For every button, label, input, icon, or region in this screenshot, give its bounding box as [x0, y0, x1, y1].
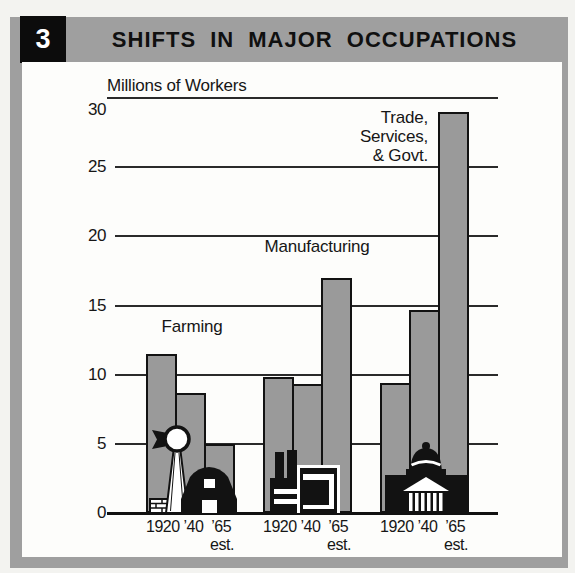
- figure-header: SHIFTS IN MAJOR OCCUPATIONS: [10, 17, 568, 62]
- series-label-manufacturing: Manufacturing: [257, 237, 377, 257]
- x-tick-row: 1920’40’65: [380, 518, 469, 536]
- x-tick-est-label: est.: [204, 536, 240, 554]
- x-tick-row: 1920’40’65: [146, 518, 235, 536]
- x-tick-label: 1920: [380, 518, 414, 536]
- trade-label-line1: Trade, Services,: [312, 108, 428, 146]
- bar-farming-65: [204, 444, 235, 513]
- figure-panel: 3 SHIFTS IN MAJOR OCCUPATIONS Millions o…: [10, 17, 568, 568]
- trade-label-line2: & Govt.: [312, 146, 428, 165]
- x-tick-label: ’65: [441, 518, 469, 536]
- bar-manufacturing-65: [321, 278, 352, 513]
- x-tick-label: ’40: [180, 518, 208, 536]
- gridline-30: [107, 97, 498, 99]
- x-tick-row: 1920’40’65: [263, 518, 352, 536]
- series-label-farming: Farming: [142, 317, 242, 337]
- bar-trade-services-govt--65: [438, 112, 469, 513]
- x-tick-label: 1920: [263, 518, 297, 536]
- y-tick-label-20: 20: [22, 226, 106, 246]
- x-tick-label: ’65: [324, 518, 352, 536]
- bar-manufacturing-40: [292, 384, 323, 513]
- x-tick-label: ’40: [297, 518, 325, 536]
- bar-trade-services-govt--1920: [380, 383, 411, 513]
- y-tick-label-0: 0: [22, 503, 106, 523]
- y-tick-label-10: 10: [22, 365, 106, 385]
- bar-trade-services-govt--40: [409, 310, 440, 513]
- y-axis-unit-label: Millions of Workers: [107, 76, 246, 96]
- y-tick-label-5: 5: [22, 434, 106, 454]
- x-tick-label: ’65: [207, 518, 235, 536]
- y-tick-label-30: 30: [22, 100, 106, 120]
- y-tick-label-25: 25: [22, 157, 106, 177]
- x-tick-est-label: est.: [321, 536, 357, 554]
- y-tick-label-15: 15: [22, 296, 106, 316]
- x-tick-label: 1920: [146, 518, 180, 536]
- chart-title: SHIFTS IN MAJOR OCCUPATIONS: [61, 27, 517, 53]
- series-label-trade-services-govt: Trade, Services, & Govt.: [312, 108, 428, 165]
- x-tick-label: ’40: [414, 518, 442, 536]
- x-tick-est-label: est.: [438, 536, 474, 554]
- bar-farming-1920: [146, 354, 177, 513]
- bar-manufacturing-1920: [263, 377, 294, 513]
- chart-plot-area: Millions of Workers 302520151050 1920’40…: [22, 62, 562, 557]
- bar-farming-40: [175, 393, 206, 513]
